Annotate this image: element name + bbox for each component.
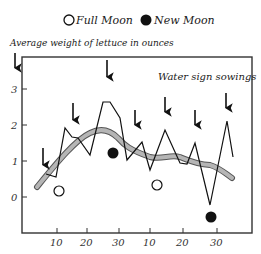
y-axis: 0 1 2 3: [10, 84, 27, 203]
x-tick-4: 10: [143, 237, 156, 248]
new-moon-icon: [141, 15, 152, 26]
y-tick-3: 3: [11, 84, 17, 95]
x-axis: 10 20 30 10 20 30: [50, 228, 223, 248]
full-moon-marker: [54, 186, 64, 196]
trend-line: [37, 130, 232, 187]
new-moon-marker: [206, 212, 217, 223]
full-moon-icon: [64, 15, 74, 25]
full-moon-marker: [152, 180, 162, 190]
legend-full-moon-label: Full Moon: [75, 14, 133, 27]
y-axis-label: Average weight of lettuce in ounces: [9, 38, 174, 48]
plot-frame: [22, 57, 252, 233]
y-tick-2: 2: [10, 120, 17, 131]
legend-new-moon-label: New Moon: [153, 14, 215, 27]
new-moon-marker: [108, 148, 119, 159]
x-tick-1: 10: [50, 237, 63, 248]
lunar-lettuce-chart: Full Moon New Moon Average weight of let…: [0, 0, 261, 254]
y-tick-1: 1: [12, 156, 18, 167]
water-sign-arrows: [15, 53, 226, 165]
x-tick-2: 20: [79, 237, 93, 248]
x-tick-6: 30: [210, 237, 223, 248]
legend: Full Moon New Moon: [64, 14, 215, 27]
y-tick-0: 0: [11, 192, 18, 203]
x-tick-3: 30: [112, 237, 125, 248]
x-tick-5: 20: [175, 237, 189, 248]
water-sign-label: Water sign sowings: [158, 71, 257, 82]
